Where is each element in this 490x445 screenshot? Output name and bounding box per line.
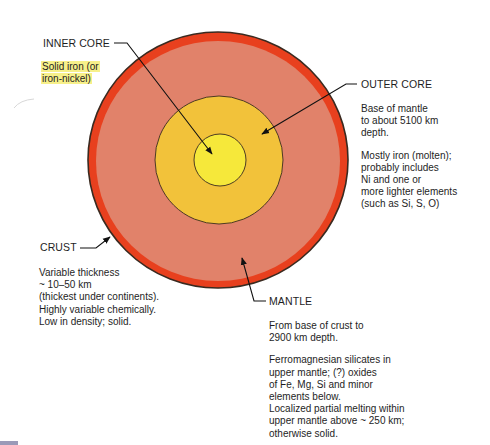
mantle-desc-line: 2900 km depth.	[269, 332, 405, 344]
crust-description: Variable thickness ~ 10–50 km (thickest …	[39, 267, 159, 328]
inner-core-label: INNER CORE	[43, 37, 110, 49]
outer-core-desc-line: Mostly iron (molten);	[361, 150, 457, 162]
corner-mark	[0, 441, 18, 445]
crust-label: CRUST	[40, 241, 77, 253]
mantle-desc-line: upper mantle; (?) oxides	[269, 367, 405, 379]
outer-core-description: Base of mantle to about 5100 km depth. M…	[361, 103, 457, 211]
mantle-description: From base of crust to 2900 km depth. Fer…	[269, 320, 405, 440]
inner-core-desc-line: Solid iron (or	[41, 61, 100, 72]
mantle-label: MANTLE	[269, 295, 312, 307]
outer-core-desc-line: Ni and one or	[361, 174, 457, 186]
crust-desc-line: ~ 10–50 km	[39, 279, 159, 291]
mantle-desc-line: elements below.	[269, 391, 405, 403]
mantle-desc-line: Ferromagnesian silicates in	[269, 354, 405, 366]
mantle-desc-line: Localized partial melting within	[269, 403, 405, 415]
outer-core-desc-line: more lighter elements	[361, 186, 457, 198]
mantle-desc-line: of Fe, Mg, Si and minor	[269, 379, 405, 391]
outer-core-desc-line: (such as Si, S, O)	[361, 198, 457, 210]
stray-mark	[14, 99, 34, 108]
inner-core-description: Solid iron (or iron-nickel)	[41, 61, 100, 85]
outer-core-desc-line: to about 5100 km	[361, 115, 457, 127]
crust-leader-arrow	[80, 237, 110, 248]
inner-core-layer	[194, 134, 246, 186]
crust-desc-line: Highly variable chemically.	[39, 304, 159, 316]
mantle-desc-line: otherwise solid.	[269, 428, 405, 440]
outer-core-desc-line: depth.	[361, 127, 457, 139]
crust-desc-line: (thickest under continents).	[39, 291, 159, 303]
mantle-desc-line: From base of crust to	[269, 320, 405, 332]
outer-core-desc-line: probably includes	[361, 162, 457, 174]
outer-core-desc-line: Base of mantle	[361, 103, 457, 115]
crust-desc-line: Low in density; solid.	[39, 316, 159, 328]
outer-core-label: OUTER CORE	[361, 78, 432, 90]
mantle-desc-line: upper mantle above ~ 250 km;	[269, 415, 405, 427]
crust-desc-line: Variable thickness	[39, 267, 159, 279]
inner-core-desc-line: iron-nickel)	[41, 73, 92, 84]
